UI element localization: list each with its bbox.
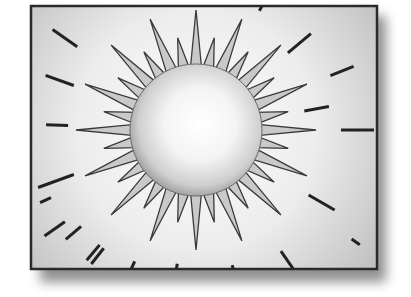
light-dash: [390, 111, 410, 113]
sun-disc: [130, 64, 262, 196]
light-dash: [167, 286, 169, 297]
sun-illustration: [0, 0, 411, 297]
light-dash: [46, 125, 68, 126]
